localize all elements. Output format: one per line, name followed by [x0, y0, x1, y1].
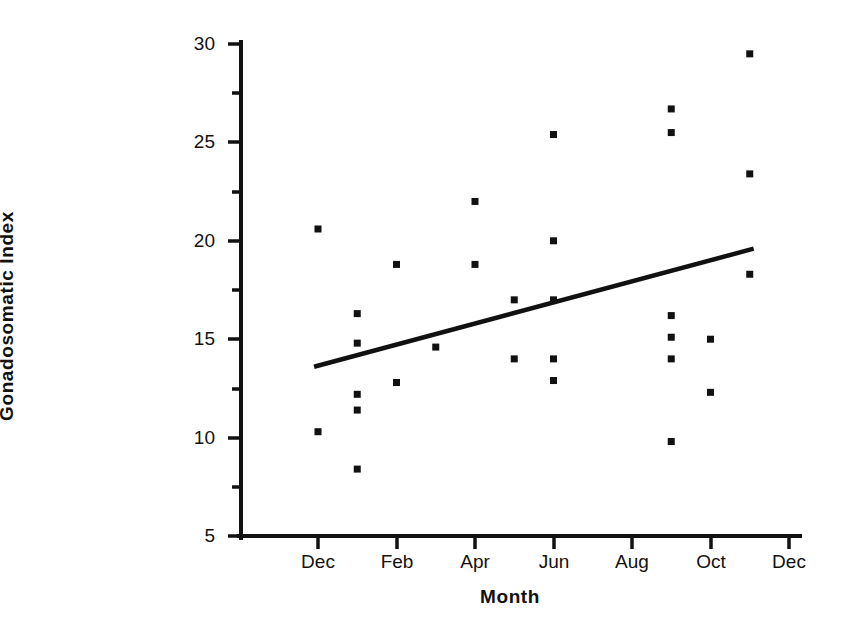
x-tick-label-jun: Jun [539, 551, 570, 573]
x-tick-label-dec-1: Dec [301, 551, 335, 573]
data-point [472, 261, 479, 268]
y-tick-label-25: 25 [165, 131, 215, 153]
y-tick-label-20: 20 [165, 230, 215, 252]
data-point [746, 271, 753, 278]
data-point [707, 389, 714, 396]
y-axis [228, 42, 241, 538]
y-tick-label-15: 15 [165, 328, 215, 350]
x-tick-label-oct: Oct [696, 551, 726, 573]
data-point [354, 466, 361, 473]
data-point [511, 296, 518, 303]
x-axis [239, 536, 800, 549]
data-point [354, 407, 361, 414]
data-point [746, 170, 753, 177]
data-point [354, 340, 361, 347]
data-point [550, 355, 557, 362]
data-point [668, 312, 675, 319]
plot-canvas [0, 0, 841, 632]
data-point [550, 131, 557, 138]
data-point [393, 379, 400, 386]
data-point [668, 355, 675, 362]
data-point [668, 438, 675, 445]
regression-trend-line [314, 249, 754, 367]
y-tick-label-10: 10 [165, 427, 215, 449]
data-point [707, 336, 714, 343]
data-point [746, 50, 753, 57]
data-point [354, 310, 361, 317]
data-point [315, 225, 322, 232]
x-axis-title: Month [400, 586, 620, 608]
data-point [315, 428, 322, 435]
data-point [550, 377, 557, 384]
x-tick-label-apr: Apr [460, 551, 490, 573]
data-point [354, 391, 361, 398]
data-point [668, 129, 675, 136]
data-point [668, 334, 675, 341]
scatter-plot-figure: Gonadosomatic Index Month 30 25 20 15 10… [0, 0, 841, 632]
y-tick-label-30: 30 [165, 33, 215, 55]
x-tick-label-feb: Feb [381, 551, 414, 573]
data-points-layer [315, 50, 754, 472]
data-point [472, 198, 479, 205]
y-tick-label-5: 5 [165, 525, 215, 547]
data-point [432, 344, 439, 351]
x-tick-label-aug: Aug [615, 551, 649, 573]
data-point [668, 105, 675, 112]
data-point [511, 355, 518, 362]
data-point [550, 237, 557, 244]
data-point [393, 261, 400, 268]
x-tick-label-dec-2: Dec [772, 551, 806, 573]
